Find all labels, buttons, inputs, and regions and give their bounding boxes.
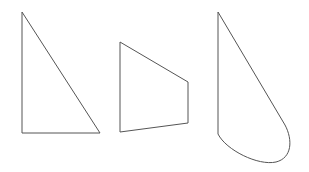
right-triangle-shape <box>22 12 100 133</box>
diagram-canvas <box>0 0 309 172</box>
curved-triangle-shape <box>218 12 290 163</box>
trapezoid-shape <box>120 42 188 132</box>
